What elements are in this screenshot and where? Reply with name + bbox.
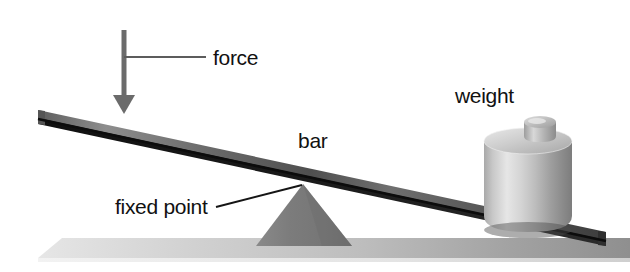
fixed-point-label: fixed point [115,195,208,218]
lever-illustration: force bar fixed point weight [0,0,630,272]
weight-body [484,141,572,232]
force-arrow [113,30,135,114]
weight-contact-shadow [484,222,572,238]
lever-diagram: force bar fixed point weight [0,0,630,272]
ground-front-face [38,258,630,262]
bar-left-end-cap [38,110,45,125]
weight-label: weight [454,84,514,107]
force-label: force [213,46,258,69]
weight-knob-highlight [528,118,546,124]
force-arrow-head [113,95,135,114]
weight-cylinder [484,116,572,238]
bar-label: bar [298,129,328,152]
